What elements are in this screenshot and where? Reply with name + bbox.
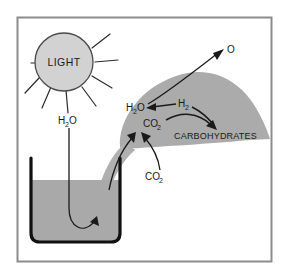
sun-label: LIGHT	[48, 56, 81, 68]
hydrogen-sub: 2	[185, 104, 189, 111]
leaf-co2-sub: 2	[157, 124, 161, 131]
carbohydrates-label: CARBOHYDRATES	[174, 131, 257, 141]
external-co2-sub: 2	[159, 177, 163, 184]
leaf-water-base2: O	[137, 102, 145, 113]
water-source-base2: O	[69, 115, 77, 126]
photosynthesis-diagram: LIGHT H 2	[0, 0, 289, 279]
external-co2-base: CO	[145, 171, 160, 182]
leaf-co2-base: CO	[143, 118, 158, 129]
photosynthesis-figure: LIGHT H 2	[0, 0, 289, 279]
beaker-water	[32, 180, 119, 241]
oxygen-label: O	[227, 44, 235, 55]
